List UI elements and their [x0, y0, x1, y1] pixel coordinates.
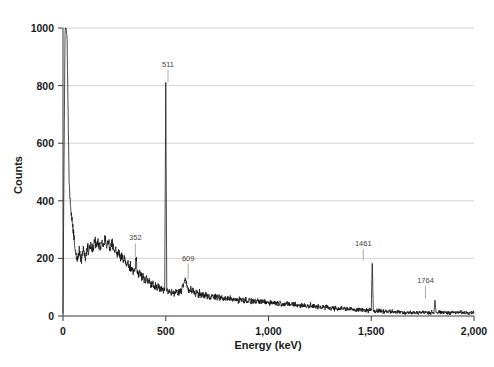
axes	[58, 28, 474, 321]
x-tick-label: 1,000	[255, 325, 281, 337]
peak-label: 511	[162, 60, 174, 69]
x-tick-label: 2,000	[461, 325, 487, 337]
peak-label: 352	[129, 233, 142, 242]
x-axis-title: Energy (keV)	[234, 339, 302, 351]
spectrum-trace	[63, 28, 474, 315]
x-tick-label: 1,500	[358, 325, 384, 337]
gridlines	[63, 28, 474, 258]
x-tick-label: 500	[157, 325, 175, 337]
y-axis-title: Counts	[12, 156, 24, 194]
peak-annotations: 35251160914611764	[129, 60, 434, 299]
y-tick-label: 0	[48, 310, 54, 322]
y-tick-label: 200	[36, 252, 54, 264]
y-tick-label: 1000	[31, 22, 55, 34]
spectrum-chart: 0200400600800100005001,0001,5002,000 352…	[0, 0, 494, 367]
y-tick-label: 800	[36, 80, 54, 92]
peak-label: 1764	[417, 276, 434, 285]
spectrum-line	[63, 28, 474, 315]
tick-labels: 0200400600800100005001,0001,5002,000	[31, 22, 488, 337]
y-tick-label: 400	[36, 195, 54, 207]
peak-label: 1461	[355, 239, 372, 248]
x-tick-label: 0	[60, 325, 66, 337]
peak-label: 609	[182, 254, 195, 263]
y-tick-label: 600	[36, 137, 54, 149]
gamma-spectrum-figure: 0200400600800100005001,0001,5002,000 352…	[0, 0, 494, 367]
